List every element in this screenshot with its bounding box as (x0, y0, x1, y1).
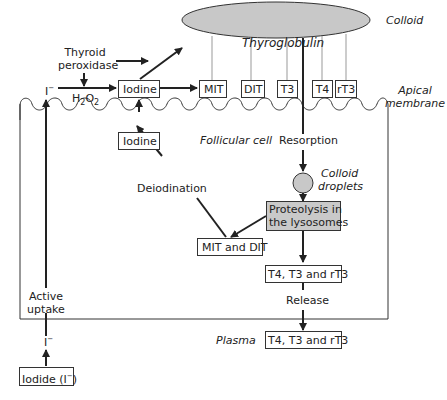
t3-box: T3 (277, 80, 298, 98)
active-uptake-label: Active uptake (24, 290, 68, 316)
h2o2-label: H2O2 (72, 92, 99, 109)
colloid-droplets-label: Colloid droplets (318, 167, 363, 193)
thyroglobulin-ellipse (182, 2, 370, 38)
proteolysis-box: Proteolysis in the lysosomes (266, 201, 341, 231)
colloid-droplet (293, 173, 313, 193)
iodide-plasma-box: Iodide (I−) (19, 367, 74, 386)
thyroid-peroxidase-label: Thyroid peroxidase (58, 46, 112, 72)
iodide-ion-label: I− (45, 82, 54, 98)
iodine-cell-box: Iodine (118, 132, 160, 150)
colloid-label: Colloid (386, 14, 423, 27)
mit-box: MIT (199, 80, 227, 98)
apical-membrane-label: Apical membrane (382, 84, 447, 110)
hormones-cell-box: T4, T3 and rT3 (265, 265, 342, 283)
deiodination-label: Deiodination (137, 182, 207, 195)
t4-box: T4 (312, 80, 333, 98)
follicular-cell-label: Follicular cell (200, 134, 272, 147)
release-label: Release (286, 294, 329, 307)
iodine-colloid-box: Iodine (118, 80, 160, 98)
hormones-plasma-box: T4, T3 and rT3 (265, 331, 342, 349)
thyroglobulin-label: Thyroglobulin (242, 37, 324, 50)
thyroid-peroxidase-line2: peroxidase (58, 59, 112, 72)
resorption-label: Resorption (279, 134, 338, 147)
dit-box: DIT (241, 80, 265, 98)
thyroid-peroxidase-line1: Thyroid (58, 46, 112, 59)
plasma-label: Plasma (216, 334, 256, 347)
rt3-box: rT3 (335, 80, 357, 98)
plasma-iodide-ion-label: I− (44, 333, 53, 349)
mit-dit-box: MIT and DIT (197, 238, 263, 256)
